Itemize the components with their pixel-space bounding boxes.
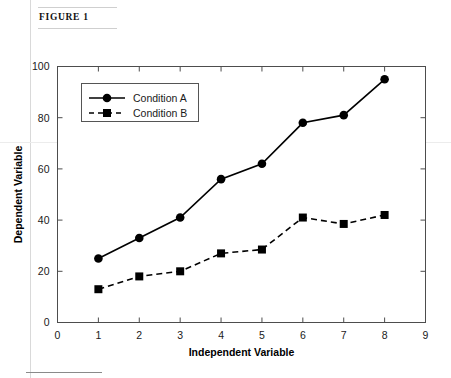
y-axis-tick-labels: 020406080100 [32,60,50,328]
data-point-marker [258,246,266,254]
data-point-marker [299,119,308,128]
x-tick-label: 9 [423,329,429,341]
line-chart: 020406080100 0123456789 Dependent Variab… [0,47,451,367]
x-tick-label: 0 [55,329,61,341]
legend-marker [103,94,112,103]
data-point-marker [135,234,144,243]
data-point-marker [381,211,389,219]
data-point-marker [299,214,307,222]
legend-marker [103,109,111,117]
page-footer-rule [26,372,102,373]
x-tick-label: 8 [382,329,388,341]
x-tick-label: 2 [136,329,142,341]
figure-header: FIGURE 1 [38,7,117,29]
data-point-marker [176,213,185,222]
data-point-marker [258,159,267,168]
y-tick-label: 80 [38,112,50,124]
y-axis-title: Dependent Variable [12,146,24,244]
data-point-marker [135,272,143,280]
data-point-marker [217,249,225,257]
chart-figure: 020406080100 0123456789 Dependent Variab… [0,47,451,367]
data-point-marker [94,254,103,263]
data-point-marker [340,220,348,228]
y-tick-label: 40 [38,214,50,226]
x-tick-label: 3 [177,329,183,341]
x-tick-label: 4 [218,329,224,341]
y-tick-label: 60 [38,163,50,175]
data-point-marker [339,111,348,120]
x-axis-tick-labels: 0123456789 [55,329,429,341]
y-tick-label: 0 [44,316,50,328]
x-axis-title: Independent Variable [189,346,295,358]
y-tick-label: 20 [38,265,50,277]
x-tick-label: 5 [259,329,265,341]
legend-label: Condition B [133,107,187,119]
x-tick-label: 7 [341,329,347,341]
figure-header-bottom-rule [38,28,117,29]
y-tick-label: 100 [32,60,50,72]
chart-legend: Condition ACondition B [82,84,199,122]
data-point-marker [176,267,184,275]
data-point-marker [94,285,102,293]
data-point-marker [217,175,226,184]
legend-label: Condition A [133,92,187,104]
figure-title: FIGURE 1 [38,8,117,28]
data-point-marker [380,75,389,84]
x-tick-label: 6 [300,329,306,341]
x-tick-label: 1 [95,329,101,341]
